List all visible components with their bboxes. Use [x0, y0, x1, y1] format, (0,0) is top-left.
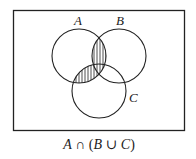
label-a: A: [73, 13, 82, 28]
venn-diagram: A B C A ∩ (B ∪ C): [0, 0, 196, 159]
label-b: B: [116, 13, 124, 28]
caption-close: ): [130, 137, 135, 153]
caption-cup: ∪: [102, 137, 121, 152]
label-c: C: [129, 90, 138, 105]
caption-a: A: [62, 137, 72, 152]
caption-cap: ∩ (: [72, 137, 94, 153]
caption: A ∩ (B ∪ C): [62, 137, 135, 153]
